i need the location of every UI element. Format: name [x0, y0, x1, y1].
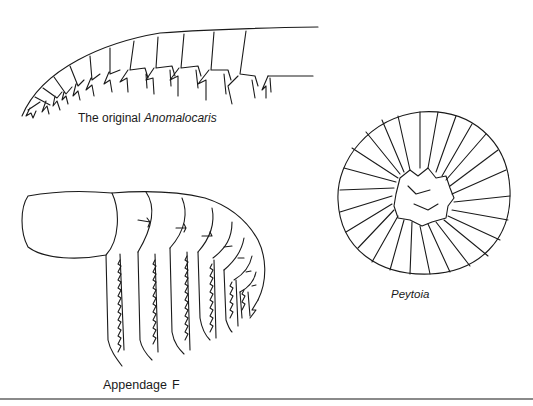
appendage-f-drawing: [22, 191, 265, 366]
peytoia-radial-plates: [340, 112, 510, 274]
caption-prefix: The original: [78, 111, 141, 125]
caption-appendage-f: AppendageF: [103, 378, 180, 392]
anomalocaris-segments: [26, 31, 271, 118]
illustrations: [0, 0, 533, 406]
caption-taxon: Anomalocaris: [144, 111, 217, 125]
caption-peytoia: Peytoia: [391, 287, 429, 301]
caption-anomalocaris: The original Anomalocaris: [78, 111, 217, 125]
anomalocaris-drawing: [22, 27, 318, 118]
bottom-rule: [0, 398, 533, 400]
caption-label: Appendage: [103, 378, 167, 392]
peytoia-drawing: [338, 112, 510, 274]
figure: The original Anomalocaris AppendageF Pey…: [0, 0, 533, 406]
caption-letter: F: [172, 378, 180, 392]
